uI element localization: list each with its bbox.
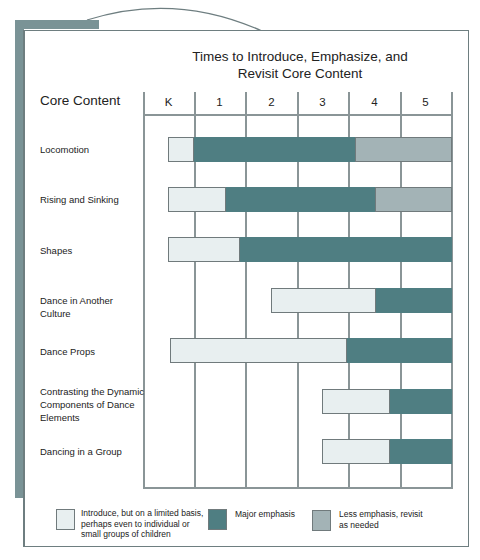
bar-segment-major — [376, 288, 452, 313]
row-label-group: Dancing in a Group — [40, 445, 145, 458]
column-label-3: 3 — [297, 96, 348, 108]
bar-segment-major — [390, 439, 452, 464]
row-label-line: Components of Dance — [40, 398, 145, 411]
header-divider — [143, 114, 453, 116]
legend-line: small groups of children — [81, 529, 203, 540]
bar-segment-intro — [322, 389, 390, 414]
row-label-dance-props: Dance Props — [40, 345, 145, 358]
column-label-5: 5 — [400, 96, 451, 108]
bar-segment-intro — [170, 338, 347, 363]
row-label-shapes: Shapes — [40, 244, 145, 257]
row-label-line: Elements — [40, 411, 145, 424]
chart-title: Times to Introduce, Emphasize, and Revis… — [150, 48, 450, 82]
bar-segment-less — [375, 187, 452, 212]
title-line-2: Revisit Core Content — [150, 65, 450, 82]
row-label-rising-sinking: Rising and Sinking — [40, 193, 145, 206]
title-line-1: Times to Introduce, Emphasize, and — [150, 48, 450, 65]
bar-segment-intro — [271, 288, 376, 313]
legend-swatch-less — [312, 510, 331, 531]
legend-label-intro: Introduce, but on a limited basis, perha… — [81, 508, 203, 540]
bar-segment-major — [347, 338, 452, 363]
bar-segment-less — [355, 137, 452, 162]
legend-swatch-major — [208, 509, 227, 530]
row-label-contrasting: Contrasting the Dynamic Components of Da… — [40, 385, 145, 424]
bar-segment-intro — [168, 187, 226, 212]
bar-segment-intro — [168, 137, 194, 162]
row-label-locomotion: Locomotion — [40, 143, 145, 156]
bar-segment-major — [390, 389, 452, 414]
bar-segment-intro — [322, 439, 390, 464]
legend-swatch-intro — [56, 509, 75, 530]
column-label-1: 1 — [194, 96, 245, 108]
row-header: Core Content — [40, 93, 120, 108]
legend-line: perhaps even to individual or — [81, 519, 203, 530]
bar-segment-intro — [168, 237, 240, 262]
bar-segment-major — [194, 137, 355, 162]
bar-segment-major — [240, 237, 452, 262]
row-label-line: Contrasting the Dynamic — [40, 385, 145, 398]
chart-frame-left-edge — [23, 30, 25, 547]
legend-line: as needed — [339, 520, 423, 531]
legend-line: Less emphasis, revisit — [339, 509, 423, 520]
column-label-4: 4 — [349, 96, 400, 108]
legend-label-major: Major emphasis — [235, 509, 295, 520]
row-label-another-culture: Dance in Another Culture — [40, 294, 145, 320]
legend-line: Introduce, but on a limited basis, — [81, 508, 203, 519]
frame-tab-accent — [15, 20, 99, 29]
bar-segment-major — [226, 187, 375, 212]
grid-bottom — [143, 487, 453, 489]
column-label-2: 2 — [246, 96, 297, 108]
legend-label-less: Less emphasis, revisit as needed — [339, 509, 423, 530]
column-label-k: K — [143, 96, 194, 108]
